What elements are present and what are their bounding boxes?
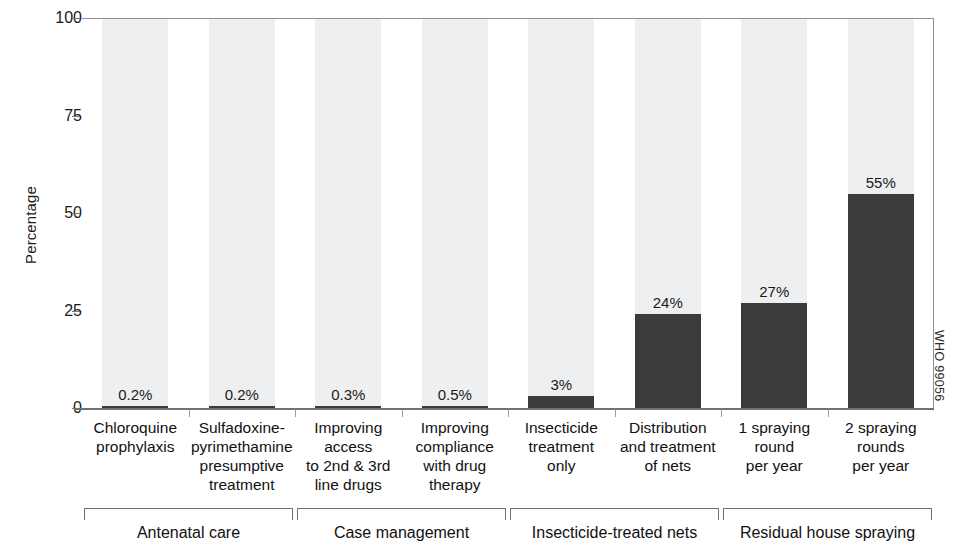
category-label: Insecticidetreatmentonly	[508, 418, 614, 475]
category-label-line: only	[508, 456, 614, 475]
x-tick-mark	[295, 409, 296, 417]
bar-value-label: 55%	[831, 174, 931, 191]
y-tick-mark	[72, 18, 80, 19]
category-label-line: per year	[721, 456, 827, 475]
x-tick-mark	[508, 409, 509, 417]
group-label: Antenatal care	[84, 524, 293, 542]
category-label-line: and treatment	[615, 437, 721, 456]
group-bracket	[297, 508, 506, 520]
bar	[741, 303, 807, 408]
who-credit-label: WHO 99056	[932, 330, 946, 401]
category-label-line: of nets	[615, 456, 721, 475]
y-tick-mark	[72, 311, 80, 312]
x-axis-origin-tick	[74, 408, 82, 410]
category-label-line: Sulfadoxine-	[189, 418, 295, 437]
category-label-line: Insecticide	[508, 418, 614, 437]
category-label-line: Distribution	[615, 418, 721, 437]
y-tick-mark	[72, 213, 80, 214]
bar-value-label: 0.2%	[85, 386, 185, 403]
bar-value-label: 0.5%	[405, 386, 505, 403]
bar	[528, 396, 594, 408]
category-label: Improvingcompliancewith drugtherapy	[402, 418, 508, 494]
bar-chart: Percentage 0255075100 0.2%0.2%0.3%0.5%3%…	[0, 0, 969, 556]
bar-value-label: 0.3%	[298, 386, 398, 403]
category-label-line: therapy	[402, 475, 508, 494]
category-label-line: treatment	[189, 475, 295, 494]
category-label: Improvingaccessto 2nd & 3rdline drugs	[295, 418, 401, 494]
category-label: 2 sprayingroundsper year	[828, 418, 934, 475]
group-bracket	[84, 508, 293, 520]
x-tick-mark	[828, 409, 829, 417]
x-tick-mark	[402, 409, 403, 417]
group-bracket	[510, 508, 719, 520]
group-bracket	[723, 508, 932, 520]
category-label-line: prophylaxis	[82, 437, 188, 456]
group-label: Insecticide-treated nets	[510, 524, 719, 542]
group-label: Case management	[297, 524, 506, 542]
column-band	[102, 19, 168, 408]
column-band	[209, 19, 275, 408]
bar	[635, 314, 701, 408]
category-label-line: round	[721, 437, 827, 456]
category-label-line: presumptive	[189, 456, 295, 475]
bar-value-label: 0.2%	[192, 386, 292, 403]
category-label-line: treatment	[508, 437, 614, 456]
group-label: Residual house spraying	[723, 524, 932, 542]
category-label-line: rounds	[828, 437, 934, 456]
category-label: Chloroquineprophylaxis	[82, 418, 188, 456]
category-label-line: 1 spraying	[721, 418, 827, 437]
category-label-line: 2 spraying	[828, 418, 934, 437]
category-label-line: per year	[828, 456, 934, 475]
category-label-line: line drugs	[295, 475, 401, 494]
category-label-line: compliance	[402, 437, 508, 456]
bar-value-label: 24%	[618, 294, 718, 311]
column-band	[315, 19, 381, 408]
y-axis-title-text: Percentage	[22, 150, 39, 300]
y-axis-title: Percentage	[4, 0, 21, 150]
column-band	[422, 19, 488, 408]
x-tick-mark	[615, 409, 616, 417]
category-label: Sulfadoxine-pyrimethaminepresumptivetrea…	[189, 418, 295, 494]
category-label-line: Improving	[402, 418, 508, 437]
x-tick-mark	[189, 409, 190, 417]
category-label-line: Chloroquine	[82, 418, 188, 437]
category-label-line: access	[295, 437, 401, 456]
plot-area	[82, 18, 934, 408]
category-label: Distributionand treatmentof nets	[615, 418, 721, 475]
category-label-line: with drug	[402, 456, 508, 475]
category-label: 1 sprayingroundper year	[721, 418, 827, 475]
x-tick-mark	[721, 409, 722, 417]
column-band	[528, 19, 594, 408]
bar-value-label: 3%	[511, 376, 611, 393]
category-label-line: pyrimethamine	[189, 437, 295, 456]
category-label-line: to 2nd & 3rd	[295, 456, 401, 475]
bar	[848, 194, 914, 409]
bar-value-label: 27%	[724, 283, 824, 300]
category-label-line: Improving	[295, 418, 401, 437]
y-tick-mark	[72, 116, 80, 117]
